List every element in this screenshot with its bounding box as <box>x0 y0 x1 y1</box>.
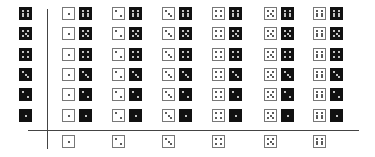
pip-icon <box>333 71 335 73</box>
pip-icon <box>82 56 84 58</box>
cell-white-die <box>162 27 175 40</box>
pip-icon <box>272 143 274 145</box>
column-header-white-die <box>264 135 277 148</box>
pip-icon <box>232 56 234 58</box>
row-header-black-die <box>19 68 32 81</box>
pip-icon <box>182 51 184 53</box>
pip-icon <box>187 56 189 58</box>
pip-icon <box>284 10 286 12</box>
pip-icon <box>316 51 318 53</box>
pip-icon <box>321 76 323 78</box>
pip-icon <box>168 94 170 96</box>
pip-icon <box>132 30 134 32</box>
pip-icon <box>82 71 84 73</box>
pip-icon <box>270 141 272 143</box>
pip-icon <box>25 74 27 76</box>
pip-icon <box>170 35 172 37</box>
pip-icon <box>168 115 170 117</box>
row-header-black-die <box>19 48 32 61</box>
pip-icon <box>270 74 272 76</box>
pip-icon <box>316 10 318 12</box>
pip-icon <box>237 30 239 32</box>
cell-white-die <box>62 7 75 20</box>
pip-icon <box>187 96 189 98</box>
pip-icon <box>232 30 234 32</box>
pip-icon <box>289 96 291 98</box>
pip-icon <box>182 10 184 12</box>
cell-black-die <box>79 48 92 61</box>
pip-icon <box>270 33 272 35</box>
pip-icon <box>182 15 184 17</box>
pip-icon <box>187 30 189 32</box>
pip-icon <box>284 35 286 37</box>
pip-icon <box>115 51 117 53</box>
pip-icon <box>338 35 340 37</box>
pip-icon <box>27 35 29 37</box>
pip-icon <box>316 96 318 98</box>
pip-icon <box>338 96 340 98</box>
pip-icon <box>284 71 286 73</box>
cell-black-die <box>330 48 343 61</box>
pip-icon <box>287 33 289 35</box>
cell-black-die <box>229 48 242 61</box>
pip-icon <box>220 30 222 32</box>
pip-icon <box>321 143 323 145</box>
pip-icon <box>267 96 269 98</box>
pip-icon <box>220 15 222 17</box>
pip-icon <box>237 15 239 17</box>
pip-icon <box>137 56 139 58</box>
pip-icon <box>170 143 172 145</box>
cell-white-die <box>112 68 125 81</box>
cell-black-die <box>79 7 92 20</box>
pip-icon <box>237 56 239 58</box>
cell-black-die <box>281 48 294 61</box>
pip-icon <box>68 74 70 76</box>
pip-icon <box>333 91 335 93</box>
pip-icon <box>272 51 274 53</box>
pip-icon <box>284 15 286 17</box>
pip-icon <box>267 10 269 12</box>
pip-icon <box>22 10 24 12</box>
cell-white-die <box>162 7 175 20</box>
pip-icon <box>87 51 89 53</box>
pip-icon <box>120 56 122 58</box>
cell-black-die <box>281 7 294 20</box>
pip-icon <box>170 56 172 58</box>
cell-white-die <box>264 109 277 122</box>
pip-icon <box>68 54 70 56</box>
pip-icon <box>25 33 27 35</box>
row-header-black-die <box>19 109 32 122</box>
pip-icon <box>215 76 217 78</box>
pip-icon <box>168 54 170 56</box>
pip-icon <box>22 91 24 93</box>
cell-white-die <box>313 68 326 81</box>
cell-white-die <box>313 109 326 122</box>
pip-icon <box>87 96 89 98</box>
pip-icon <box>287 74 289 76</box>
horizontal-axis-line <box>28 130 359 131</box>
pip-icon <box>215 10 217 12</box>
cell-white-die <box>162 88 175 101</box>
pip-icon <box>316 30 318 32</box>
pip-icon <box>237 35 239 37</box>
column-header-white-die <box>162 135 175 148</box>
pip-icon <box>333 51 335 53</box>
pip-icon <box>187 35 189 37</box>
pip-icon <box>289 51 291 53</box>
pip-icon <box>87 15 89 17</box>
pip-icon <box>289 10 291 12</box>
pip-icon <box>120 117 122 119</box>
cell-black-die <box>229 27 242 40</box>
pip-icon <box>215 71 217 73</box>
pip-icon <box>333 30 335 32</box>
cell-black-die <box>179 27 192 40</box>
pip-icon <box>333 56 335 58</box>
pip-icon <box>185 33 187 35</box>
pip-icon <box>289 76 291 78</box>
pip-icon <box>115 112 117 114</box>
pip-icon <box>272 10 274 12</box>
cell-black-die <box>330 7 343 20</box>
pip-icon <box>220 51 222 53</box>
pip-icon <box>284 30 286 32</box>
pip-icon <box>27 51 29 53</box>
